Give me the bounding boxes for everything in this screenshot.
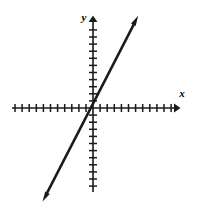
graph-figure: x y [0,0,198,211]
coordinate-plane-svg: x y [0,0,198,211]
x-axis-label: x [178,87,185,99]
y-axis-label: y [80,11,87,23]
